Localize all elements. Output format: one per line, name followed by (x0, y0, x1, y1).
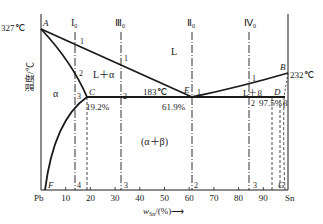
x-tick-label-30: 30 (111, 193, 121, 203)
alloy-III-label: Ⅲ0 (115, 17, 125, 29)
x-tick-label-80: 80 (234, 193, 244, 203)
point-D-label: D (273, 87, 281, 97)
region-alpha: α (53, 88, 59, 99)
alloy-I-mark-4: 4 (77, 181, 81, 190)
alloy-III-mark-1: 1 (124, 54, 128, 63)
alloy-II-label: Ⅱ0 (187, 17, 195, 29)
x-tick-label-90: 90 (259, 193, 269, 203)
region-liquid: L (171, 46, 177, 57)
y-axis-label: 温度/℃ (24, 62, 35, 92)
point-E-label: E (183, 85, 190, 95)
eutectic-temp-label: 183℃ (143, 87, 167, 97)
point-E-comp: 61.9% (162, 102, 186, 112)
x-axis-right-element: Sn (285, 193, 295, 203)
x-tick-label-20: 20 (86, 193, 96, 203)
solvus-DG (284, 97, 285, 190)
point-G-label: G (278, 180, 285, 190)
point-D-comp: 97.5% (259, 98, 283, 108)
x-tick-label-70: 70 (209, 193, 219, 203)
alloy-IV-mark-2: 2 (251, 99, 255, 108)
x-tick-label-10: 10 (61, 193, 71, 203)
x-tick-labels: 102030405060708090 (61, 193, 268, 203)
x-axis-left-element: Pb (34, 193, 44, 203)
alloy-I-mark-1: 1 (80, 37, 84, 46)
point-F-label: F (47, 180, 54, 190)
liquidus-AE (41, 29, 192, 97)
x-tick-label-60: 60 (185, 193, 195, 203)
alloy-III-mark-3: 3 (124, 181, 128, 190)
region-beta: β (283, 98, 288, 108)
point-A-temp: 327℃ (1, 23, 25, 33)
solvus-CF (45, 97, 87, 190)
x-axis-label: wSn/(%)⟶ (143, 206, 184, 217)
x-tick-label-50: 50 (160, 193, 170, 203)
alloy-IV-mark-3: 3 (253, 181, 257, 190)
alloy-I-mark-2: 2 (79, 69, 83, 78)
solidus-BD (284, 73, 288, 97)
alloy-IV-mark-1: 1 (252, 74, 256, 83)
point-B-temp: 232℃ (290, 70, 314, 80)
point-C-comp: 19.2% (86, 102, 110, 112)
alloy-II-mark-1: 1 (197, 88, 201, 97)
alloy-I-mark-3: 3 (77, 92, 81, 101)
point-C-label: C (89, 87, 96, 97)
point-A-label: A (42, 18, 49, 28)
region-l-beta: L＋β (243, 88, 262, 98)
region-l-alpha: L＋α (93, 69, 115, 80)
alloy-II-mark-2: 2 (194, 181, 198, 190)
region-alpha-beta: (α＋β) (141, 136, 168, 148)
x-tick-label-40: 40 (135, 193, 145, 203)
alloy-I-label: I0 (71, 17, 77, 29)
alloy-III-mark-2: 2 (123, 92, 127, 101)
phase-diagram: I0 Ⅲ0 Ⅱ0 Ⅳ0 1 2 3 4 1 2 3 1 2 1 2 3 327℃… (0, 0, 323, 224)
alloy-IV-label: Ⅳ0 (244, 17, 256, 29)
point-B-label: B (280, 62, 286, 72)
